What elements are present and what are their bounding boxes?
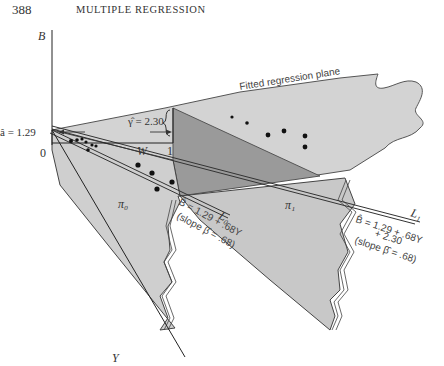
y-axis-label: Y: [112, 351, 120, 365]
w-axis-label: W: [137, 144, 148, 158]
pi0-label: π₀: [118, 197, 128, 211]
intercept-label: â = 1.29: [0, 126, 36, 138]
w-one-label: 1: [167, 144, 173, 158]
pi1-label: π₁: [285, 198, 295, 212]
b-axis-label: B: [38, 29, 46, 43]
pi1-plane: [180, 178, 355, 330]
pi0-plane: [52, 130, 180, 330]
regression-figure: B 0 W 1 Y â = 1.29 γ̂ = 2.30 Fitted regr…: [0, 0, 444, 366]
gamma-label: γ̂ = 2.30: [127, 115, 164, 127]
origin-label: 0: [40, 146, 46, 160]
